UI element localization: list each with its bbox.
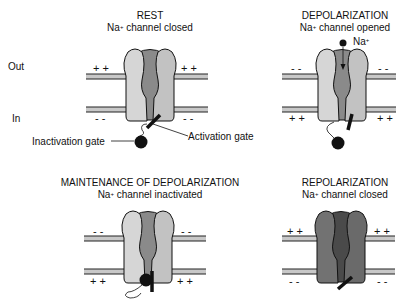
inactivation-gate-tether (327, 122, 336, 140)
rest-panel (86, 49, 208, 149)
repolarization-panel (282, 211, 395, 289)
inactivation-gate-ball (135, 136, 148, 149)
inactivation-gate-tether (125, 285, 142, 298)
sodium-ion (340, 40, 347, 47)
inactivation-gate-ball (140, 274, 153, 287)
inactivation-gate-ball (332, 137, 345, 150)
activation-gate-leader (153, 124, 188, 136)
depolarization-panel (282, 40, 396, 150)
maintenance-panel (84, 211, 206, 298)
sodium-channel-diagram (0, 0, 416, 306)
